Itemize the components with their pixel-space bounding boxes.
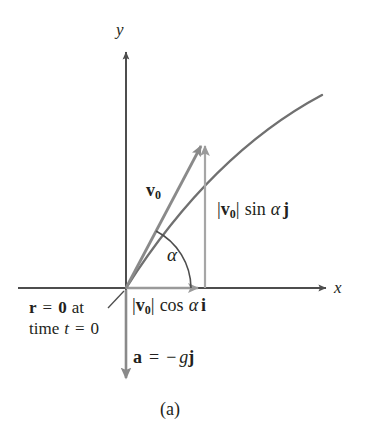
position-equals: = [43,298,53,317]
time-word: time [29,319,59,338]
angle-label: α [167,245,177,264]
origin-leader-line [108,291,124,308]
velocity-symbol: v [146,180,155,200]
time-zero: 0 [91,319,100,338]
y-axis-label: y [116,21,124,38]
acceleration-symbol: a [133,347,142,367]
projectile-motion-figure: y x v0 |v0|sinαj |v0|cosαi α a=−gj r=0at… [0,0,374,434]
vertical-velocity-symbol: v [221,199,230,219]
figure-caption: (a) [160,400,180,418]
x-axis-label: x [334,279,342,296]
position-zero-vector: 0 [58,298,67,317]
horizontal-unit-vector: i [201,295,206,315]
acceleration-unit-vector: j [188,347,194,367]
acceleration-minus: − [166,347,176,367]
acceleration-equals: = [149,347,159,367]
velocity-subscript: 0 [155,188,161,202]
horizontal-trig-function: cos [160,295,184,315]
horizontal-angle-symbol: α [189,295,198,315]
horizontal-component-label: |v0|cosαi [132,295,206,316]
velocity-vector-label: v0 [146,181,161,201]
acceleration-label: a=−gj [133,348,194,366]
initial-position-line-1: r=0at [29,298,99,319]
time-symbol: t [64,319,69,338]
initial-position-note: r=0at timet=0 [29,298,99,339]
position-at-word: at [72,298,84,317]
position-vector-symbol: r [29,298,37,317]
vertical-trig-function: sin [245,199,266,219]
abs-bar-close-vertical: | [236,198,240,219]
time-equals: = [75,319,85,338]
initial-velocity-vector [126,146,201,288]
vertical-component-label: |v0|sinαj [217,199,289,220]
gravity-symbol: g [179,347,188,367]
horizontal-velocity-symbol: v [136,295,145,315]
abs-bar-close-horizontal: | [151,294,155,315]
initial-position-line-2: timet=0 [29,319,99,340]
vertical-angle-symbol: α [271,199,280,219]
vertical-unit-vector: j [283,199,289,219]
figure-canvas [0,0,374,434]
